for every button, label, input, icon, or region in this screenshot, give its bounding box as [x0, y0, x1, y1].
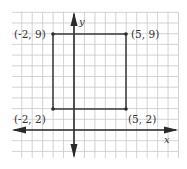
y-axis-up-arrow-icon — [71, 12, 78, 26]
x-axis-left-arrow-icon — [12, 127, 26, 134]
coordinate-plane: y x (-2, 9) (5, 9) (5, 2) (-2, 2) — [0, 0, 187, 169]
vertex-point — [51, 32, 55, 36]
vertex-point — [124, 32, 128, 36]
x-axis-right-arrow-icon — [164, 127, 178, 134]
point-label-top-right: (5, 9) — [131, 28, 159, 40]
point-label-bottom-right: (5, 2) — [128, 113, 156, 125]
y-axis-label: y — [78, 16, 85, 27]
vertex-point — [51, 107, 55, 111]
x-axis-label: x — [164, 134, 170, 145]
vertex-point — [124, 107, 128, 111]
rectangle — [51, 32, 128, 111]
point-label-bottom-left: (-2, 2) — [14, 113, 46, 125]
point-label-top-left: (-2, 9) — [14, 28, 46, 40]
